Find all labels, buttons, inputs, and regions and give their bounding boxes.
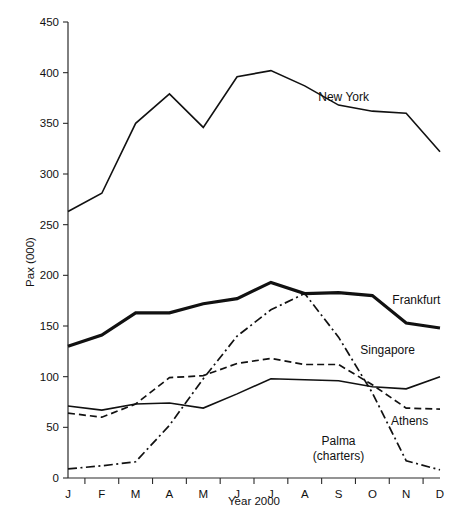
x-tick-label: A [301,488,309,500]
x-tick-label: J [65,488,71,500]
series-label-athens: Athens [391,414,428,428]
y-axis-tick-group: 050100150200250300350400450 [40,16,68,484]
x-tick-label: M [131,488,141,500]
series-label-new-york: New York [318,90,370,104]
line-chart-svg: 050100150200250300350400450 JFMAMJJASOND… [0,0,460,528]
y-axis-title: Pax (000) [24,237,36,287]
series-label-palma-charters: Palma [322,434,356,448]
series-line-frankfurt [68,282,440,346]
y-tick-label: 250 [40,219,59,231]
y-tick-label: 150 [40,320,59,332]
y-tick-label: 50 [46,421,59,433]
y-tick-label: 450 [40,16,59,28]
y-tick-label: 100 [40,371,59,383]
x-tick-label: M [198,488,208,500]
x-tick-label: O [368,488,377,500]
series-label-singapore: Singapore [360,343,415,357]
x-tick-label: S [335,488,343,500]
y-tick-label: 200 [40,269,59,281]
y-tick-label: 0 [53,472,59,484]
y-tick-label: 300 [40,168,59,180]
series-label-palma-charters-line2: (charters) [313,449,364,463]
series-line-singapore [68,377,440,410]
series-line-new-york [68,71,440,212]
x-tick-label: A [166,488,174,500]
series-label-group: New YorkFrankfurtSingaporeAthensPalma(ch… [313,90,441,463]
chart-container: 050100150200250300350400450 JFMAMJJASOND… [0,0,460,528]
series-group [68,71,440,470]
y-tick-label: 350 [40,117,59,129]
x-tick-label: N [402,488,410,500]
y-tick-label: 400 [40,67,59,79]
x-axis-title: Year 2000 [228,495,280,507]
series-label-frankfurt: Frankfurt [392,293,441,307]
x-tick-label: F [98,488,105,500]
x-tick-label: D [436,488,444,500]
